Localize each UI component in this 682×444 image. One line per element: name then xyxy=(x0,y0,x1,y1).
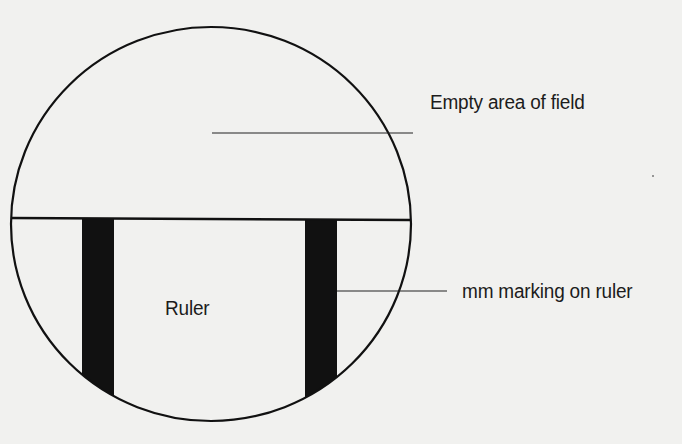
ruler-edge-line xyxy=(11,218,411,220)
diagram-canvas: Empty area of field mm marking on ruler … xyxy=(0,0,682,444)
label-ruler: Ruler xyxy=(165,297,209,321)
mm-marking-left xyxy=(82,219,114,439)
label-mm-marking: mm marking on ruler xyxy=(462,280,632,304)
mm-marking-right xyxy=(305,219,337,439)
mm-markings xyxy=(82,219,337,439)
speck-dot xyxy=(652,175,654,177)
field-of-view-diagram xyxy=(0,0,682,444)
label-empty-area: Empty area of field xyxy=(430,91,585,115)
field-of-view-circle xyxy=(11,27,411,421)
